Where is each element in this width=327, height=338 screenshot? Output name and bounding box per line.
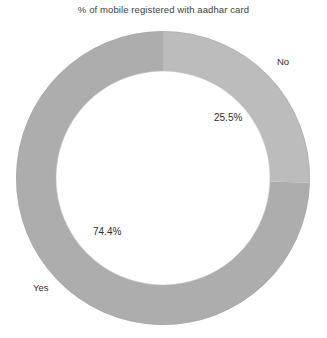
slice-label-yes: Yes bbox=[33, 282, 49, 293]
slice-group bbox=[16, 31, 310, 325]
slice-value-yes: 74.4% bbox=[93, 226, 121, 237]
slice-no bbox=[163, 31, 310, 183]
slice-label-no: No bbox=[277, 56, 289, 67]
donut-svg bbox=[0, 0, 327, 338]
donut-chart: % of mobile registered with aadhar card … bbox=[0, 0, 327, 338]
slice-value-no: 25.5% bbox=[214, 112, 242, 123]
donut-inner-rim bbox=[56, 71, 270, 285]
